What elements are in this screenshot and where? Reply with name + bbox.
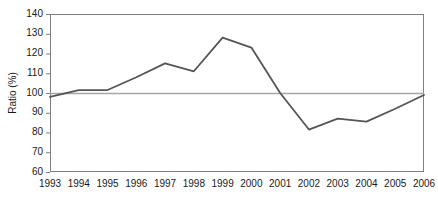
x-axis-tick-label: 1997 (154, 178, 177, 189)
x-axis-tick-label: 1995 (96, 178, 119, 189)
x-axis-tick-label: 2002 (298, 178, 321, 189)
x-axis-tick-label: 1993 (39, 178, 62, 189)
y-axis: 60708090100110120130140 (26, 8, 50, 177)
x-axis-tick-label: 2006 (413, 178, 436, 189)
y-axis-tick-label: 120 (26, 47, 43, 58)
y-axis-tick-label: 70 (32, 146, 44, 157)
x-axis-tick-label: 1999 (211, 178, 234, 189)
y-axis-tick-label: 90 (32, 106, 44, 117)
x-axis-tick-label: 1996 (125, 178, 148, 189)
x-axis-tick-label: 2000 (240, 178, 263, 189)
y-axis-tick-label: 80 (32, 126, 44, 137)
y-axis-title: Ratio (%) (7, 72, 18, 114)
x-axis-tick-label: 2004 (355, 178, 378, 189)
y-axis-tick-label: 110 (27, 67, 43, 78)
y-axis-tick-label: 130 (26, 27, 43, 38)
x-axis-tick-label: 2001 (269, 178, 292, 189)
x-axis: 1993199419951996199719981999200020012002… (39, 178, 436, 189)
x-axis-tick-label: 2003 (327, 178, 350, 189)
x-axis-tick-label: 1994 (68, 178, 91, 189)
x-axis-tick-label: 2005 (384, 178, 407, 189)
x-axis-tick-label: 1998 (183, 178, 206, 189)
y-axis-tick-label: 60 (32, 166, 44, 177)
y-axis-tick-label: 100 (26, 87, 43, 98)
chart-canvas: 60708090100110120130140Ratio (%)19931994… (0, 0, 438, 199)
line-chart-figure: 60708090100110120130140Ratio (%)19931994… (0, 0, 438, 199)
y-axis-tick-label: 140 (26, 8, 43, 19)
